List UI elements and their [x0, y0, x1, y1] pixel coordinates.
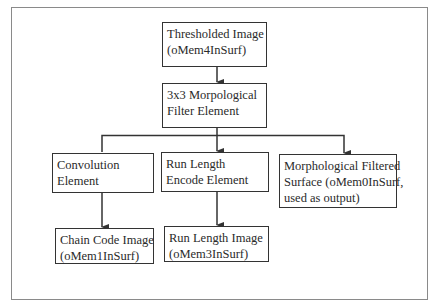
node-label: (oMem3InSurf): [169, 246, 264, 262]
node-label: Surface (oMem0InSurf,: [284, 174, 392, 190]
edge-filter-branches: [102, 136, 344, 154]
node-label: Run Length: [166, 156, 264, 172]
node-label: Convolution: [57, 157, 149, 173]
node-label: Filter Element: [167, 103, 262, 119]
node-label: (oMem1InSurf): [60, 248, 149, 264]
node-label: Chain Code Image: [60, 232, 149, 248]
node-morphological-filtered-surface: Morphological Filtered Surface (oMem0InS…: [279, 154, 397, 208]
node-label: 3x3 Morpological: [167, 87, 262, 103]
node-label: Encode Element: [166, 172, 264, 188]
node-label: used as output): [284, 190, 392, 206]
node-label: Thresholded Image: [167, 26, 262, 42]
node-label: (oMem4InSurf): [167, 42, 262, 58]
node-label: Element: [57, 173, 149, 189]
node-label: Run Length Image: [169, 230, 264, 246]
node-convolution-element: Convolution Element: [52, 153, 154, 193]
node-thresholded-image: Thresholded Image (oMem4InSurf): [162, 22, 267, 67]
node-chain-code-image: Chain Code Image (oMem1InSurf): [55, 228, 154, 264]
node-run-length-encode: Run Length Encode Element: [161, 152, 269, 192]
node-label: Morphological Filtered: [284, 158, 392, 174]
node-run-length-image: Run Length Image (oMem3InSurf): [164, 226, 269, 262]
node-morphological-filter: 3x3 Morpological Filter Element: [162, 83, 267, 128]
